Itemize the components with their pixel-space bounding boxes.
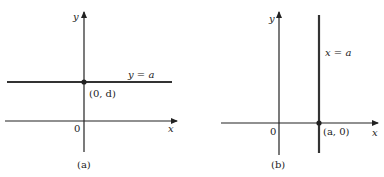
line-label: x = a bbox=[325, 47, 351, 58]
y-axis-label: y bbox=[268, 13, 275, 24]
panel-caption: (a) bbox=[77, 159, 91, 170]
line-label: y = a bbox=[127, 69, 154, 80]
point-label: (0, d) bbox=[89, 88, 116, 99]
diagram-canvas: y x 0 y = a (0, d) (a) y x 0 x = a (a, 0… bbox=[0, 0, 384, 177]
y-axis-label: y bbox=[72, 11, 79, 22]
point-label: (a, 0) bbox=[323, 126, 350, 137]
panel-a: y x 0 y = a (0, d) (a) bbox=[5, 11, 177, 170]
origin-label: 0 bbox=[270, 126, 276, 137]
origin-label: 0 bbox=[74, 123, 80, 134]
panel-b: y x 0 x = a (a, 0) (b) bbox=[221, 12, 378, 170]
intercept-point bbox=[81, 79, 86, 84]
x-axis-label: x bbox=[168, 123, 174, 134]
panel-caption: (b) bbox=[271, 159, 285, 170]
intercept-point bbox=[316, 120, 321, 125]
x-axis-label: x bbox=[372, 127, 378, 138]
